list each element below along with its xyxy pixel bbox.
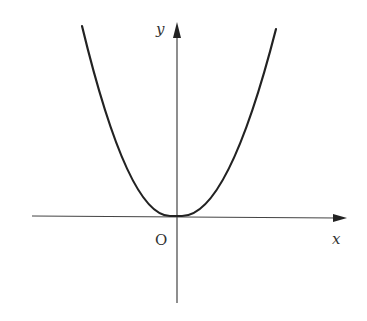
y-axis-label: y: [155, 20, 165, 38]
origin-label: O: [155, 231, 167, 249]
y-axis-arrow-icon: [173, 22, 181, 38]
x-axis-label: x: [332, 230, 341, 248]
parabola-curve: [82, 26, 276, 216]
y-axis: [173, 22, 181, 303]
x-axis-arrow-icon: [333, 214, 347, 222]
parabola-diagram: y O x: [0, 0, 367, 321]
